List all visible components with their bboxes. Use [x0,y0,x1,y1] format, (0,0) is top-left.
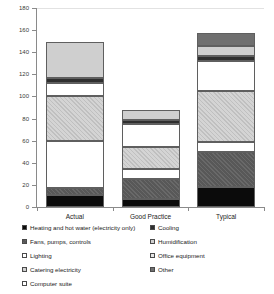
bar-segment-humid [46,42,104,77]
x-axis-tick [188,207,189,211]
legend-swatch-heating-icon [22,225,27,230]
legend-swatch-computer-icon [22,281,27,286]
bar-segment-catering [197,91,255,142]
bar-segment-cooling [46,78,104,84]
legend-label: Office equipment [158,252,205,259]
y-axis-tick [32,185,37,186]
legend-label: Catering electricity [30,266,81,273]
chart-legend: Heating and hot water (electricity only)… [0,220,274,294]
y-axis-tick [32,8,37,9]
x-axis-tick [264,207,265,211]
bar-actual [46,8,104,207]
legend-label: Cooling [158,224,179,231]
y-axis-tick [32,96,37,97]
y-axis-tick-label: 160 [0,27,29,33]
legend-swatch-fans-icon [22,239,27,244]
legend-item-catering[interactable]: Catering electricity [22,262,135,276]
legend-item-computer[interactable]: Computer suite [22,276,135,290]
legend-label: Humidification [158,238,197,245]
y-axis-tick-label: 40 [0,160,29,166]
bar-segment-fans [46,188,104,195]
bar-segment-cooling [197,56,255,62]
y-axis-tick-label: 20 [0,182,29,188]
bar-segment-heating [46,195,104,207]
legend-label: Lighting [30,252,52,259]
bar-segment-computer [197,61,255,91]
bar-segment-computer [122,124,180,147]
y-axis-tick [32,163,37,164]
legend-swatch-office-icon [150,253,155,258]
y-axis-tick-label: 60 [0,138,29,144]
y-axis-tick-label: 100 [0,93,29,99]
legend-label: Other [158,266,173,273]
stacked-bar-chart: 020406080100120140160180 ActualGood Prac… [0,0,274,294]
y-axis-tick-label: 120 [0,71,29,77]
legend-item-cooling[interactable]: Cooling [150,220,205,234]
bar-segment-fans [122,179,180,199]
legend-item-lighting[interactable]: Lighting [22,248,135,262]
legend-column-right: CoolingHumidificationOffice equipmentOth… [150,220,205,276]
bar-segment-other [197,33,255,45]
y-axis-tick [32,30,37,31]
y-axis-tick-label: 140 [0,49,29,55]
bar-segment-cooling [122,120,180,124]
legend-column-left: Heating and hot water (electricity only)… [22,220,135,290]
legend-swatch-catering-icon [22,267,27,272]
bar-segment-catering [46,96,104,140]
y-axis-tick [32,119,37,120]
y-axis-tick-label: 180 [0,5,29,11]
y-axis-tick-label: 80 [0,116,29,122]
bar-segment-lighting [122,169,180,179]
bar-segment-heating [197,187,255,207]
legend-label: Fans, pumps, controls [30,238,91,245]
bar-segment-heating [122,199,180,207]
legend-item-heating[interactable]: Heating and hot water (electricity only) [22,220,135,234]
legend-swatch-cooling-icon [150,225,155,230]
legend-item-office[interactable]: Office equipment [150,248,205,262]
legend-item-humid[interactable]: Humidification [150,234,205,248]
bar-segment-computer [46,83,104,96]
bar-segment-humid [122,110,180,120]
legend-swatch-lighting-icon [22,253,27,258]
legend-item-fans[interactable]: Fans, pumps, controls [22,234,135,248]
bar-segment-catering [122,147,180,169]
x-axis-tick [113,207,114,211]
legend-label: Heating and hot water (electricity only) [30,224,135,231]
bar-segment-fans [197,152,255,187]
y-axis-tick [32,141,37,142]
legend-label: Computer suite [30,280,72,287]
legend-swatch-other-icon [150,267,155,272]
plot-area: 020406080100120140160180 ActualGood Prac… [0,0,274,218]
bar-typical [197,8,255,207]
bar-good-practice [122,8,180,207]
legend-item-other[interactable]: Other [150,262,205,276]
y-axis-line [36,8,37,208]
x-axis-tick [37,207,38,211]
y-axis-tick [32,52,37,53]
bar-segment-lighting [46,141,104,189]
legend-swatch-humid-icon [150,239,155,244]
bar-segment-lighting [197,142,255,152]
y-axis-tick-label: 0 [0,204,29,210]
x-axis-line [36,207,264,208]
bar-segment-humid [197,46,255,56]
y-axis-tick [32,74,37,75]
